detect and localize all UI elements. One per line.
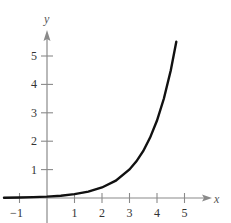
- x-tick-label: −1: [10, 206, 23, 220]
- y-tick-label: 2: [31, 134, 37, 148]
- exponential-curve: [4, 42, 176, 198]
- y-tick-label: 4: [31, 77, 37, 91]
- ticks: −11234512345: [10, 49, 187, 220]
- x-axis-label: x: [213, 192, 220, 206]
- x-tick-label: 3: [127, 206, 133, 220]
- x-tick-label: 4: [154, 206, 160, 220]
- x-tick-label: 5: [182, 206, 188, 220]
- y-tick-label: 5: [31, 49, 37, 63]
- y-tick-label: 3: [31, 106, 37, 120]
- y-tick-label: 1: [31, 163, 37, 177]
- exponential-graph: −11234512345 x y: [0, 0, 231, 223]
- x-tick-label: 1: [72, 206, 78, 220]
- x-tick-label: 2: [99, 206, 105, 220]
- y-axis-label: y: [43, 12, 50, 26]
